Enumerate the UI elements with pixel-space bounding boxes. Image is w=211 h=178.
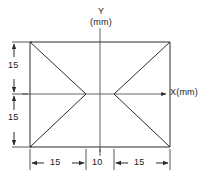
x-axis-label: X(mm) <box>170 88 198 97</box>
vertical-witness-lines <box>12 42 32 147</box>
y-axis-unit-label: (mm) <box>86 18 116 27</box>
dimension-right-width: 15 <box>134 158 150 167</box>
right-triangle <box>114 42 170 147</box>
dimension-lower-height: 15 <box>8 113 18 122</box>
dimension-left-width: 15 <box>50 158 66 167</box>
drawing-canvas: Y (mm) X(mm) 15 15 15 10 15 <box>0 0 211 178</box>
dimension-center-gap: 10 <box>92 158 108 167</box>
axis-lines <box>22 28 166 152</box>
dimension-upper-height: 15 <box>8 61 18 70</box>
left-triangle <box>30 42 86 147</box>
y-axis-label: Y <box>92 7 110 16</box>
